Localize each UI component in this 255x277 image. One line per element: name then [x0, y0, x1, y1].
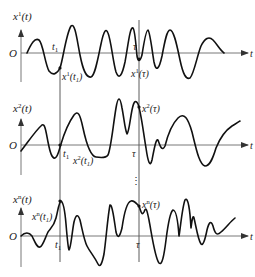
ylabel-2: x2(t) — [12, 102, 32, 115]
ellipsis: ⋮ — [131, 175, 141, 186]
value-x2-t1: x2(t1) — [72, 154, 94, 167]
value-x1-t1: x1(t1) — [61, 70, 83, 83]
value-x2-tau: x2(τ) — [141, 102, 161, 115]
tau-label-1: τ — [133, 41, 137, 52]
sample-function-n: xn(t) O t t1 τ xn(t1) xn(τ) — [9, 193, 253, 267]
value-xn-tau: xn(τ) — [141, 198, 161, 211]
curve-n — [21, 199, 235, 265]
curve-2 — [21, 99, 240, 166]
value-x1-tau: x1(τ) — [130, 67, 150, 80]
point-x2-tau — [137, 105, 140, 108]
tau-label-n: τ — [136, 239, 140, 250]
point-xn-t1 — [58, 199, 61, 202]
ylabel-n: xn(t) — [12, 193, 32, 206]
point-x1-tau — [137, 57, 140, 60]
value-xn-t1: xn(t1) — [31, 210, 53, 223]
t1-label-n: t1 — [55, 239, 62, 252]
ylabel-1: x1(t) — [12, 10, 32, 23]
origin-n: O — [9, 230, 17, 242]
sample-function-2: x2(t) O t t1 τ x2(t1) x2(τ) — [9, 99, 253, 175]
point-x1-t1 — [58, 66, 61, 69]
point-x2-t1 — [58, 143, 61, 146]
sample-function-1: x1(t) O t t1 τ x1(t1) x1(τ) — [9, 10, 253, 83]
origin-1: O — [9, 47, 17, 59]
random-process-diagram: x1(t) O t t1 τ x1(t1) x1(τ) x2(t) O t t1… — [0, 0, 255, 277]
t1-label-1: t1 — [52, 41, 59, 54]
t-label-2: t — [250, 140, 253, 151]
origin-2: O — [9, 139, 17, 151]
t1-label-2: t1 — [63, 148, 70, 161]
t-label-1: t — [250, 48, 253, 59]
t-label-n: t — [250, 231, 253, 242]
point-xn-tau — [137, 204, 140, 207]
tau-label-2: τ — [132, 148, 136, 159]
